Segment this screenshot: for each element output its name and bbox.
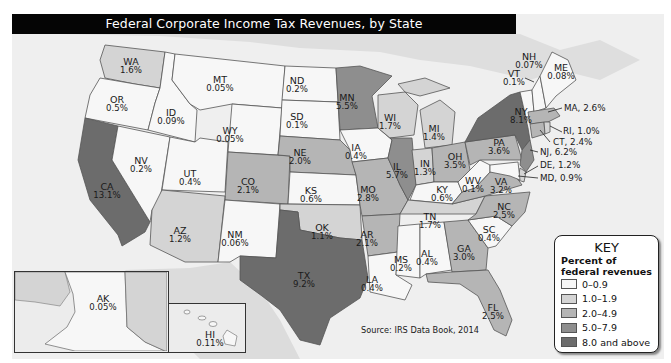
label-la: LA0.4% xyxy=(361,275,383,294)
legend-swatch xyxy=(561,279,577,289)
label-sc: SC0.4% xyxy=(478,225,500,244)
label-ia: IA0.4% xyxy=(345,143,367,162)
state-ct xyxy=(530,122,545,138)
label-tn: TN1.7% xyxy=(419,212,441,231)
label-pa: PA3.6% xyxy=(488,138,510,157)
legend-item: 8.0 and above xyxy=(561,335,652,350)
legend-swatch xyxy=(561,337,577,347)
label-oh: OH3.5% xyxy=(444,152,466,171)
legend-title: KEY xyxy=(561,240,652,255)
label-ok: OK1.1% xyxy=(311,223,333,242)
label-me: ME0.08% xyxy=(547,63,574,82)
label-wa: WA1.6% xyxy=(120,57,142,76)
label-fl: FL2.5% xyxy=(482,303,504,322)
legend: KEY Percent of federal revenues 0–0.9 1.… xyxy=(554,235,659,353)
legend-item: 2.0–4.9 xyxy=(561,306,652,321)
label-mt: MT0.05% xyxy=(206,75,233,94)
label-mi: MI1.4% xyxy=(423,124,445,143)
label-nv: NV0.2% xyxy=(130,156,152,175)
legend-item: 5.0–7.9 xyxy=(561,321,652,336)
label-mn: MN5.5% xyxy=(336,93,358,112)
label-nh: NH0.07% xyxy=(515,52,542,71)
legend-swatch xyxy=(561,323,577,333)
label-nd: ND0.2% xyxy=(286,76,308,95)
label-ma: MA, 2.6% xyxy=(564,104,606,113)
map-title: Federal Corporate Income Tax Revenues, b… xyxy=(12,14,516,34)
map-figure: Federal Corporate Income Tax Revenues, b… xyxy=(0,0,671,363)
legend-swatch xyxy=(561,294,577,304)
label-ne: NE2.0% xyxy=(289,148,311,167)
label-ar: AR2.1% xyxy=(356,230,378,249)
label-al: AL0.4% xyxy=(416,249,438,268)
legend-subtitle-1: Percent of xyxy=(561,255,652,266)
label-wi: WI1.7% xyxy=(379,113,401,132)
source-note: Source: IRS Data Book, 2014 xyxy=(361,325,479,335)
label-vt: VT0.1% xyxy=(503,69,525,88)
legend-item: 0–0.9 xyxy=(561,277,652,292)
label-ky: KY0.6% xyxy=(431,185,453,204)
label-wy: WY0.05% xyxy=(216,126,243,145)
label-ny: NY8.1% xyxy=(510,107,532,126)
label-va: VA3.2% xyxy=(490,177,512,196)
label-ak: AK0.05% xyxy=(89,294,116,313)
label-in: IN1.3% xyxy=(414,159,436,178)
label-ut: UT0.4% xyxy=(179,169,201,188)
label-nm: NM0.06% xyxy=(221,230,248,249)
label-ga: GA3.0% xyxy=(453,244,475,263)
label-de: DE, 1.2% xyxy=(540,161,580,170)
label-co: CO2.1% xyxy=(237,177,259,196)
state-ks xyxy=(288,172,360,205)
label-hi: HI0.11% xyxy=(196,330,223,349)
label-tx: TX9.2% xyxy=(293,271,315,290)
label-wv: WV0.1% xyxy=(462,176,484,195)
label-sd: SD0.1% xyxy=(286,112,308,131)
label-or: OR0.5% xyxy=(106,95,128,114)
label-az: AZ1.2% xyxy=(169,226,191,245)
state-ri xyxy=(544,122,550,134)
legend-swatch xyxy=(561,308,577,318)
label-mo: MO2.8% xyxy=(357,185,379,204)
legend-subtitle-2: federal revenues xyxy=(561,266,652,277)
label-ri: RI, 1.0% xyxy=(563,127,600,136)
label-nj: NJ, 6.2% xyxy=(540,148,577,157)
label-ca: CA13.1% xyxy=(93,182,120,201)
label-il: IL5.7% xyxy=(386,162,408,181)
label-ks: KS0.6% xyxy=(300,186,322,205)
legend-item: 1.0–1.9 xyxy=(561,292,652,307)
label-nc: NC2.5% xyxy=(493,202,515,221)
label-ct: CT, 2.4% xyxy=(553,138,592,147)
label-ms: MS0.2% xyxy=(390,255,412,274)
label-id: ID0.09% xyxy=(157,108,184,127)
label-md: MD, 0.9% xyxy=(540,174,582,183)
